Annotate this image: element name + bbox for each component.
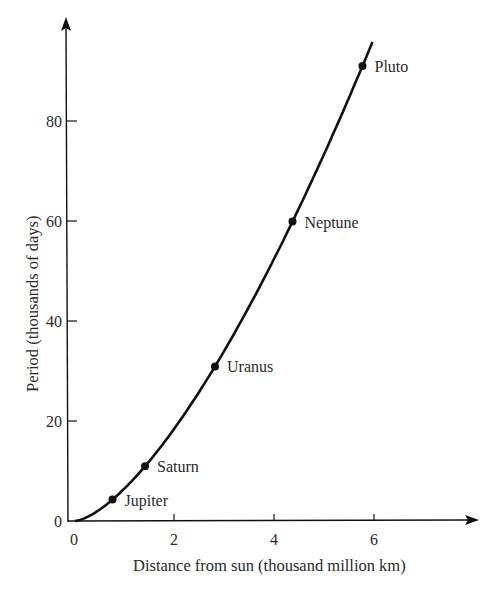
x-tick-label: 4 (270, 531, 278, 548)
x-tick-label: 2 (170, 531, 178, 548)
data-point-saturn (141, 462, 149, 470)
point-label-neptune: Neptune (305, 214, 359, 232)
period-curve (75, 42, 373, 521)
data-point-pluto (359, 62, 367, 70)
data-point-jupiter (109, 496, 117, 504)
point-label-pluto: Pluto (375, 58, 409, 75)
x-axis-label: Distance from sun (thousand million km) (133, 556, 406, 575)
y-tick-label: 40 (46, 313, 62, 330)
data-point-neptune (289, 218, 297, 226)
point-label-saturn: Saturn (157, 458, 199, 475)
x-axis-line (68, 520, 470, 521)
y-tick-label: 80 (46, 113, 62, 130)
planet-period-chart: 0246020406080 JupiterSaturnUranusNeptune… (0, 0, 490, 595)
fitted-curve (75, 42, 373, 521)
y-axis-line (66, 26, 68, 522)
y-tick-label: 0 (54, 513, 62, 530)
point-label-uranus: Uranus (227, 358, 273, 375)
y-axis-label: Period (thousands of days) (23, 216, 42, 392)
point-label-jupiter: Jupiter (125, 492, 169, 510)
x-tick-label: 6 (370, 531, 378, 548)
x-tick-label: 0 (70, 531, 78, 548)
y-tick-label: 20 (46, 413, 62, 430)
data-points: JupiterSaturnUranusNeptunePluto (109, 58, 409, 510)
y-tick-label: 60 (46, 213, 62, 230)
data-point-uranus (211, 362, 219, 370)
